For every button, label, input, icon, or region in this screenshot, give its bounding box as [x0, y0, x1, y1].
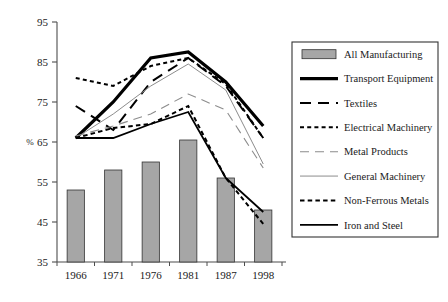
- y-tick-label: 95: [37, 16, 49, 28]
- series-line-transport-equipment: [76, 52, 264, 138]
- y-tick-label: 75: [37, 96, 49, 108]
- x-tick-label: 1966: [65, 269, 88, 281]
- x-tick-label: 1998: [252, 269, 275, 281]
- x-tick-label: 1981: [177, 269, 199, 281]
- legend-label-electrical-machinery: Electrical Machinery: [344, 122, 433, 133]
- series-line-general-machinery: [76, 64, 264, 164]
- y-axis-unit-label: %: [26, 137, 34, 147]
- x-tick-label: 1976: [140, 269, 163, 281]
- legend-label-transport-equipment: Transport Equipment: [344, 73, 433, 84]
- chart-svg: 35455565758595%196619711976198119871998A…: [0, 0, 448, 302]
- series-line-iron-and-steel: [76, 112, 264, 212]
- bar-all-manufacturing: [105, 170, 122, 262]
- bar-all-manufacturing: [180, 140, 197, 262]
- legend-label-all-manufacturing: All Manufacturing: [344, 49, 423, 60]
- y-tick-label: 85: [37, 56, 49, 68]
- x-tick-label: 1971: [102, 269, 124, 281]
- bar-all-manufacturing: [217, 178, 234, 262]
- bar-all-manufacturing: [67, 190, 84, 262]
- series-line-non-ferrous-metals: [76, 106, 264, 224]
- bar-all-manufacturing: [142, 162, 159, 262]
- chart-figure: 35455565758595%196619711976198119871998A…: [0, 0, 448, 302]
- legend-label-textiles: Textiles: [344, 98, 377, 109]
- legend-label-metal-products: Metal Products: [344, 146, 408, 157]
- legend-label-general-machinery: General Machinery: [344, 171, 426, 182]
- legend-label-non-ferrous-metals: Non-Ferrous Metals: [344, 195, 429, 206]
- y-tick-label: 45: [37, 216, 49, 228]
- x-tick-label: 1987: [215, 269, 238, 281]
- y-tick-label: 65: [37, 136, 49, 148]
- y-tick-label: 35: [37, 256, 49, 268]
- legend-swatch-bar-swatch: [302, 50, 336, 59]
- legend-label-iron-and-steel: Iron and Steel: [344, 220, 403, 231]
- y-tick-label: 55: [37, 176, 49, 188]
- legend-box: [292, 42, 438, 237]
- series-line-metal-products: [76, 94, 264, 168]
